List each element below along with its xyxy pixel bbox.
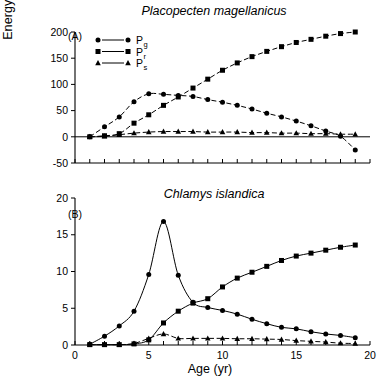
data-point-circle — [338, 333, 343, 338]
y-tick-label: 0 — [62, 131, 68, 143]
data-point-square — [264, 264, 269, 269]
x-tick-label: 10 — [217, 349, 229, 361]
legend-item-production-shell: Ps — [95, 57, 147, 72]
data-point-square — [338, 245, 343, 250]
series-line-pg — [90, 222, 356, 345]
data-point-circle — [161, 92, 166, 97]
data-point-square — [294, 40, 299, 45]
legend-label-production-growth: P — [136, 34, 143, 46]
data-point-square — [309, 37, 314, 42]
series-line-pr — [90, 245, 356, 345]
figure-container: Energy (kJ yr−1) Placopecten magellanicu… — [0, 0, 384, 385]
data-point-square — [353, 30, 358, 35]
data-point-circle — [279, 325, 284, 330]
data-point-square — [126, 49, 131, 54]
data-point-triangle — [352, 341, 358, 346]
data-point-circle — [309, 329, 314, 334]
data-point-circle — [264, 321, 269, 326]
x-tick-label: 20 — [364, 349, 376, 361]
data-point-square — [250, 54, 255, 59]
data-point-circle — [323, 331, 328, 336]
legend-label-production-shell: P — [136, 57, 143, 69]
data-point-circle — [117, 114, 122, 119]
data-point-square — [235, 60, 240, 65]
y-tick-label: 0 — [62, 339, 68, 351]
y-tick-label: 100 — [50, 78, 68, 90]
x-tick-label: 0 — [72, 349, 78, 361]
data-point-triangle — [161, 331, 167, 336]
y-tick-label: 5 — [62, 302, 68, 314]
data-point-square — [264, 49, 269, 54]
data-point-circle — [161, 219, 166, 224]
data-point-circle — [250, 107, 255, 112]
legend-subscript-production-shell: s — [144, 63, 148, 72]
data-point-circle — [205, 97, 210, 102]
data-point-square — [205, 296, 210, 301]
data-point-square — [132, 121, 137, 126]
data-point-circle — [126, 38, 131, 43]
data-point-circle — [220, 100, 225, 105]
data-point-circle — [279, 114, 284, 119]
data-point-square — [191, 301, 196, 306]
data-point-square — [323, 34, 328, 39]
x-tick-label: 5 — [146, 349, 152, 361]
data-point-circle — [191, 94, 196, 99]
data-point-square — [220, 68, 225, 73]
data-point-square — [279, 258, 284, 263]
data-point-triangle — [125, 60, 131, 65]
data-point-circle — [146, 272, 151, 277]
data-point-circle — [294, 119, 299, 124]
data-point-square — [220, 284, 225, 289]
data-point-circle — [96, 38, 101, 43]
data-point-square — [176, 94, 181, 99]
y-tick-label: 15 — [56, 228, 68, 240]
data-point-circle — [132, 309, 137, 314]
y-tick-label: -50 — [53, 157, 68, 169]
data-point-triangle — [175, 335, 181, 340]
y-tick-label: 20 — [56, 192, 68, 204]
data-point-circle — [132, 99, 137, 104]
y-tick-label: 50 — [56, 104, 68, 116]
data-point-square — [161, 103, 166, 108]
data-point-circle — [250, 317, 255, 322]
data-point-circle — [353, 335, 358, 340]
data-point-square — [338, 31, 343, 36]
data-point-square — [176, 309, 181, 314]
y-tick-label: 150 — [50, 52, 68, 64]
data-point-circle — [102, 334, 107, 339]
data-point-circle — [146, 91, 151, 96]
panel-a: -50050100150200 — [50, 26, 370, 169]
data-point-square — [191, 86, 196, 91]
data-point-circle — [294, 326, 299, 331]
legend-subscript-production-growth: g — [144, 40, 148, 49]
y-tick-label: 200 — [50, 26, 68, 38]
data-point-circle — [205, 305, 210, 310]
data-point-triangle — [352, 131, 358, 136]
data-point-square — [96, 49, 101, 54]
data-point-square — [294, 254, 299, 259]
data-point-square — [235, 276, 240, 281]
data-point-circle — [117, 323, 122, 328]
data-point-square — [279, 44, 284, 49]
data-point-square — [309, 251, 314, 256]
data-point-circle — [102, 124, 107, 129]
data-point-circle — [235, 312, 240, 317]
series-line-pr — [90, 32, 356, 137]
legend-subscript-production-reproduction: r — [144, 52, 147, 61]
plot-svg: -500501001502000510152005101520PgPrPs — [0, 0, 384, 385]
x-tick-label: 15 — [290, 349, 302, 361]
legend: PgPrPs — [95, 34, 147, 72]
legend-label-production-reproduction: P — [136, 46, 143, 58]
data-point-circle — [220, 308, 225, 313]
data-point-circle — [176, 273, 181, 278]
data-point-square — [323, 248, 328, 253]
data-point-circle — [264, 111, 269, 116]
data-point-square — [353, 243, 358, 248]
data-point-square — [146, 112, 151, 117]
data-point-triangle — [95, 60, 101, 65]
data-point-circle — [353, 147, 358, 152]
y-tick-label: 10 — [56, 265, 68, 277]
data-point-square — [161, 320, 166, 325]
panel-b: 0510152005101520 — [56, 192, 376, 361]
data-point-square — [250, 270, 255, 275]
